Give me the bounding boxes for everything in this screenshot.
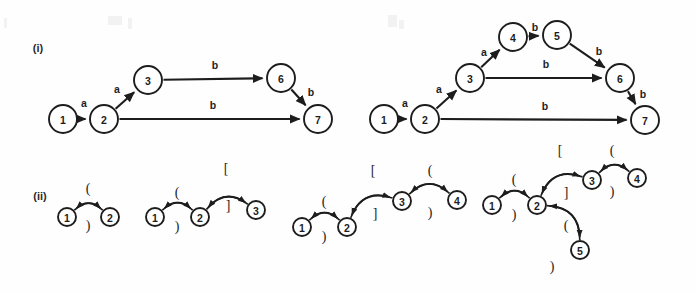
arc-symbol-3-4-4: (: [428, 163, 433, 179]
arc-3-to-2-3: [542, 174, 582, 193]
arc-symbol-1-2-0: (: [512, 172, 517, 188]
bracket-node-label-4: 4: [634, 173, 640, 185]
arc-symbol-3-4-4: (: [610, 143, 615, 159]
figure-canvas: (i)(ii) aabbb12367aaabbbbb1234567 ()12()…: [0, 0, 697, 292]
section-label-i: (i): [33, 42, 44, 54]
bracket-graph-4: ()[]()()12345: [483, 143, 646, 275]
edge-6-to-7: [628, 91, 636, 104]
arc-2-to-1-1: [77, 203, 103, 210]
arc-symbol-4-3-5: ): [428, 205, 433, 221]
arc-symbol-2-5-6: (: [564, 218, 569, 234]
arc-4-to-3-5: [601, 165, 629, 172]
edge-label-6-7: b: [640, 88, 646, 100]
automata-layer: aabbb12367aaabbbbb1234567: [49, 21, 659, 134]
arc-symbol-3-2-3: ]: [226, 198, 231, 213]
automaton-right: aaabbbbb1234567: [370, 21, 659, 134]
arc-symbol-2-1-1: ): [175, 219, 180, 235]
edge-label-2-7: b: [210, 99, 216, 111]
section-label-ii: (ii): [33, 190, 47, 202]
edge-label-5-6: b: [596, 45, 602, 57]
arc-2-to-1-1: [502, 191, 530, 199]
bracket-node-label-2: 2: [107, 212, 113, 224]
bracket-node-label-4: 4: [454, 195, 460, 207]
bracket-node-label-3: 3: [399, 196, 405, 208]
automaton-left: aabbb12367: [49, 59, 332, 133]
state-node-label-6: 6: [278, 73, 284, 85]
state-node-label-3: 3: [145, 75, 151, 87]
arc-symbol-3-2-3: ]: [564, 185, 569, 200]
bracket-node-label-1: 1: [299, 222, 305, 234]
edge-label-3-4: a: [481, 46, 487, 58]
bracket-node-label-1: 1: [489, 200, 495, 212]
edge-label-2-3: a: [114, 83, 120, 95]
state-node-label-6: 6: [617, 73, 623, 85]
bracket-node-label-2: 2: [197, 212, 203, 224]
state-node-label-3: 3: [467, 73, 473, 85]
arc-symbol-5-2-7: ): [550, 259, 555, 275]
state-node-label-7: 7: [315, 114, 321, 126]
edge-3-to-6: [163, 78, 262, 79]
bracket-node-label-5: 5: [577, 245, 583, 257]
arc-symbol-2-3-2: [: [558, 143, 563, 158]
edge-2-to-7: [440, 119, 626, 120]
arc-symbol-1-2-0: (: [322, 194, 327, 210]
arc-symbol-1-2-0: (: [175, 185, 180, 201]
state-node-label-2: 2: [101, 114, 107, 126]
arc-2-to-1-1: [165, 203, 193, 211]
edge-label-4-5: b: [532, 21, 538, 33]
bracket-node-label-1: 1: [152, 212, 158, 224]
state-node-label-2: 2: [422, 114, 428, 126]
scan-noise-layer: [4, 15, 404, 29]
arc-symbol-1-2-0: (: [86, 181, 91, 197]
arc-symbol-4-3-5: ): [610, 184, 615, 200]
bracket-node-label-3: 3: [589, 175, 595, 187]
arc-2-to-1-1: [312, 213, 340, 221]
bracket-graph-1: ()12: [58, 181, 119, 234]
state-node-label-4: 4: [510, 32, 516, 44]
edge-label-2-3: a: [436, 83, 442, 95]
bracket-node-label-3: 3: [253, 205, 259, 217]
arc-symbol-3-2-3: ]: [373, 206, 378, 221]
state-node-label-7: 7: [642, 115, 648, 127]
edge-label-1-2: a: [81, 97, 87, 109]
bracket-graph-layer: ()12()[]123()[]()1234()[]()()12345: [58, 143, 646, 275]
state-node-label-1: 1: [381, 114, 387, 126]
edge-6-to-7: [291, 90, 305, 106]
arc-symbol-2-1-1: ): [86, 218, 91, 234]
edge-label-3-6: b: [543, 58, 549, 70]
state-node-label-1: 1: [60, 114, 66, 126]
bracket-graph-2: ()[]123: [146, 161, 265, 235]
state-node-label-5: 5: [554, 30, 560, 42]
edge-label-3-6: b: [212, 59, 218, 71]
bracket-node-label-2: 2: [534, 200, 540, 212]
arc-symbol-2-1-1: ): [322, 229, 327, 245]
bracket-node-label-1: 1: [64, 212, 70, 224]
arc-symbol-2-3-2: [: [224, 161, 229, 176]
bracket-node-label-2: 2: [344, 222, 350, 234]
edge-label-1-2: a: [402, 97, 408, 109]
figure-page: (i)(ii) aabbb12367aaabbbbb1234567 ()12()…: [0, 0, 697, 292]
edge-label-2-7: b: [542, 100, 548, 112]
edge-label-6-7: b: [308, 86, 314, 98]
arc-symbol-2-1-1: ): [512, 207, 517, 223]
bracket-graph-3: ()[]()1234: [293, 163, 466, 245]
section-label-layer: (i)(ii): [33, 42, 47, 202]
arc-symbol-2-3-2: [: [371, 163, 376, 178]
